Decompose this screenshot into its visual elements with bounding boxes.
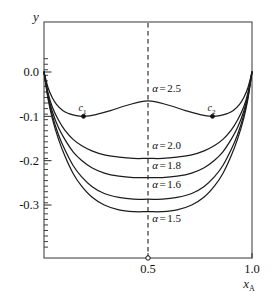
data-curves [44,72,252,212]
curve-label-equals: = [159,82,165,94]
x-axis-tick-label: 1.0 [244,262,260,276]
curve-labels: α=2.5α=2.0α=1.8α=1.6α=1.5 [152,82,181,224]
curve-label-alpha-symbol: α [152,159,158,171]
x-axis-major-ticks [148,253,252,258]
y-axis-tick-label: -0.2 [19,154,39,168]
curve-alpha-2.5 [44,72,252,116]
y-axis-tick-label: 0.0 [23,65,39,79]
curve-label-value: 1.5 [167,212,181,224]
x-axis-title: xA [242,276,255,293]
label-c2: c2 [208,102,216,116]
curve-label-alpha-symbol: α [152,178,158,190]
y-axis-tick-labels: 0.0-0.1-0.2-0.3 [19,65,39,212]
label-c1: c1 [79,102,87,116]
curve-label-alpha-1.5: α=1.5 [152,212,181,224]
curve-label-value: 1.6 [167,178,181,190]
curve-label-equals: = [159,212,165,224]
curve-label-alpha-symbol: α [152,139,158,151]
label-c2-subscript: 2 [212,108,216,116]
y-axis-tick-label: -0.1 [19,110,39,124]
chart-svg: 0.0-0.1-0.2-0.3 0.51.0 α=2.5α=2.0α=1.8α=… [0,0,275,299]
curve-label-alpha-1.8: α=1.8 [152,159,181,171]
x-axis-tick-labels: 0.51.0 [140,262,260,276]
y-axis-tick-label: -0.3 [19,198,39,212]
curve-label-value: 2.0 [167,139,181,151]
curve-label-alpha-2.0: α=2.0 [152,139,181,151]
curve-label-alpha-1.6: α=1.6 [152,178,181,190]
x-axis-tick-label: 0.5 [140,262,156,276]
curve-label-value: 2.5 [167,82,181,94]
x-axis-title-subscript: A [249,284,255,293]
curve-label-alpha-2.5: α=2.5 [152,82,181,94]
y-axis-title: y [31,9,39,24]
chart-figure: 0.0-0.1-0.2-0.3 0.51.0 α=2.5α=2.0α=1.8α=… [0,0,275,299]
marker-x-half-marker [146,256,150,260]
curve-label-value: 1.8 [167,159,181,171]
curve-label-alpha-symbol: α [152,212,158,224]
curve-label-alpha-symbol: α [152,82,158,94]
label-c1-subscript: 1 [83,108,87,116]
annotation-markers: c1c2 [79,102,216,260]
curve-label-equals: = [159,159,165,171]
curve-label-equals: = [159,178,165,190]
curve-label-equals: = [159,139,165,151]
